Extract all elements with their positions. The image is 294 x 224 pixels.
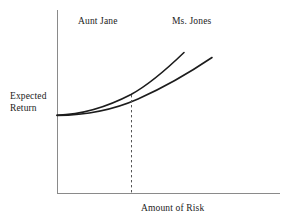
risk-return-figure: Aunt Jane Ms. Jones Expected Return Amou… bbox=[0, 0, 294, 224]
y-axis-label-line-1: Expected bbox=[10, 91, 54, 103]
x-axis-label: Amount of Risk bbox=[141, 203, 204, 214]
y-axis-label: Expected Return bbox=[10, 91, 54, 114]
curve-label-ms-jones: Ms. Jones bbox=[172, 16, 211, 27]
curve-label-aunt-jane: Aunt Jane bbox=[78, 16, 118, 27]
y-axis-label-line-2: Return bbox=[10, 103, 54, 115]
